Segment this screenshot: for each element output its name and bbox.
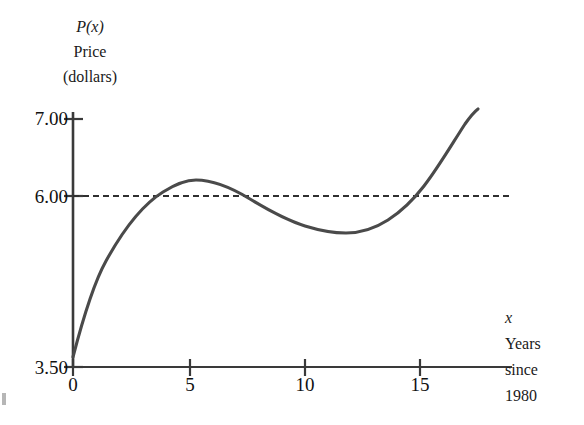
- x-tick-label-15: 15: [400, 373, 440, 396]
- x-tick-label-10: 10: [285, 373, 325, 396]
- y-axis-title-line-3: (dollars): [26, 64, 154, 89]
- x-axis-title-line-3: since: [505, 357, 581, 383]
- x-axis-title-line-2: Years: [505, 331, 581, 357]
- y-axis-title-line-2: Price: [26, 39, 154, 64]
- x-axis-title: x Years since 1980: [505, 305, 581, 409]
- figure-canvas: P(x) Price (dollars) x Years since 1980 …: [0, 0, 584, 425]
- y-axis-title-line-1: P(x): [26, 14, 154, 39]
- y-tick-label-700: 7.00: [8, 107, 68, 130]
- x-axis-title-line-1: x: [505, 305, 581, 331]
- x-axis-title-line-4: 1980: [505, 383, 581, 409]
- x-tick-label-5: 5: [170, 373, 210, 396]
- y-axis-title: P(x) Price (dollars): [26, 14, 154, 89]
- y-tick-label-600: 6.00: [8, 185, 68, 208]
- x-tick-label-0: 0: [53, 373, 93, 396]
- price-curve: [73, 109, 478, 357]
- page-edge-artifact: [2, 393, 6, 405]
